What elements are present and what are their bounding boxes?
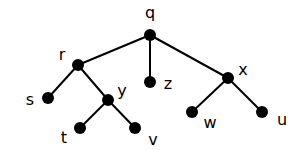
edge-x-w [192,78,228,112]
edge-r-s [48,65,78,98]
node-x [222,72,234,84]
edge-r-y [78,65,108,100]
node-z [144,76,156,88]
node-u [256,106,268,118]
edge-x-u [228,78,262,112]
nodes-group [42,29,268,134]
node-label-z: z [164,74,172,93]
node-label-x: x [238,60,247,79]
node-v [129,122,141,134]
node-t [74,122,86,134]
labels-group: qrzxsytvwu [26,3,287,149]
node-label-u: u [277,110,287,129]
node-label-t: t [61,128,67,147]
node-label-q: q [145,3,155,22]
node-w [186,106,198,118]
node-label-y: y [117,81,126,100]
edge-q-r [78,35,150,65]
node-label-w: w [203,113,216,132]
node-label-r: r [59,45,66,64]
node-y [102,94,114,106]
node-q [144,29,156,41]
node-r [72,59,84,71]
node-label-v: v [148,130,157,149]
tree-diagram: qrzxsytvwu [0,0,297,150]
node-s [42,92,54,104]
edge-q-x [150,35,228,78]
node-label-s: s [26,90,34,109]
